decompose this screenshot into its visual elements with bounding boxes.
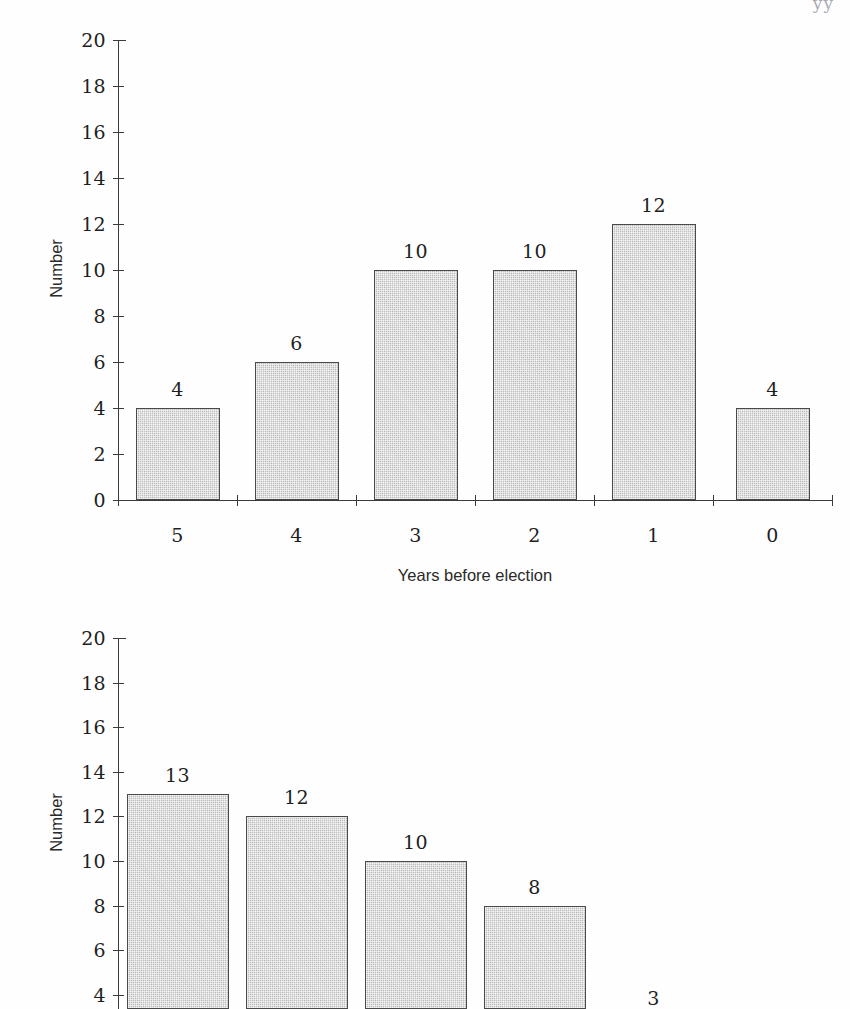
bar-value-label: 3 [647,987,659,1009]
bar [493,270,577,500]
bar-value-label: 4 [766,378,778,400]
y-axis-tick-label: 12 [60,213,106,235]
x-axis-tick [356,495,357,506]
y-axis-tick-label: 18 [60,672,106,694]
x-axis-tick [713,495,714,506]
bar [136,408,220,500]
y-axis-tick [113,316,124,317]
y-axis-tick-label: 10 [60,259,106,281]
bar-value-label: 10 [522,240,547,262]
y-axis-tick [113,683,124,684]
x-axis-tick [594,495,595,506]
y-axis-tick-label: 8 [60,895,106,917]
bar [736,408,810,500]
x-axis-tick [475,495,476,506]
bar [484,906,586,1009]
bar [255,362,339,500]
bar [365,861,467,1009]
y-axis-line [118,638,119,1009]
y-axis-tick [113,727,124,728]
y-axis-tick [113,224,124,225]
y-axis-tick [113,950,124,951]
x-axis-tick-label: 4 [290,524,302,546]
x-axis-tick-label: 2 [528,524,540,546]
bar-value-label: 12 [284,786,309,808]
bar-value-label: 6 [290,332,302,354]
bar-chart-top: 02468101214161820Number543210Years befor… [0,0,850,600]
y-axis-title: Number [47,189,66,349]
y-axis-tick-label: 20 [60,627,106,649]
x-axis-tick [237,495,238,506]
plot-area-bottom: 468101214161820Number13121083 [0,600,850,1009]
y-axis-tick [113,906,124,907]
y-axis-tick [113,178,124,179]
y-axis-tick-label: 6 [60,351,106,373]
y-axis-tick [113,772,124,773]
bar-chart-bottom: 468101214161820Number13121083 [0,600,850,1009]
bar [374,270,458,500]
y-axis-tick-label: 12 [60,805,106,827]
y-axis-tick [113,40,126,41]
x-axis-tick-label: 3 [409,524,421,546]
y-axis-tick [113,132,124,133]
y-axis-tick-label: 6 [60,939,106,961]
y-axis-tick [113,362,124,363]
x-axis-tick [832,495,833,506]
y-axis-tick-label: 8 [60,305,106,327]
y-axis-title: Number [47,742,66,902]
y-axis-tick [113,995,124,996]
y-axis-tick [113,638,126,639]
bar-value-label: 10 [403,831,428,853]
y-axis-tick [113,408,124,409]
y-axis-tick-label: 4 [60,397,106,419]
y-axis-tick-label: 18 [60,75,106,97]
y-axis-tick-label: 2 [60,443,106,465]
plot-area-top: 02468101214161820Number543210Years befor… [0,0,850,600]
bar-value-label: 10 [403,240,428,262]
x-axis-title: Years before election [398,566,552,585]
bar [246,816,348,1009]
y-axis-tick-label: 16 [60,716,106,738]
x-axis-tick [118,495,119,506]
y-axis-tick-label: 4 [60,984,106,1006]
x-axis-tick-label: 1 [647,524,659,546]
y-axis-tick [113,454,124,455]
y-axis-tick-label: 16 [60,121,106,143]
y-axis-tick-label: 0 [60,489,106,511]
y-axis-tick [113,861,124,862]
bar [127,794,229,1009]
bar-value-label: 4 [171,378,183,400]
y-axis-tick-label: 10 [60,850,106,872]
y-axis-tick-label: 20 [60,29,106,51]
bar-value-label: 12 [641,194,666,216]
bar [612,224,696,500]
bar-value-label: 8 [528,876,540,898]
y-axis-tick [113,270,124,271]
y-axis-tick [113,86,124,87]
figure-page: yy 02468101214161820Number543210Years be… [0,0,850,1009]
x-axis-tick-label: 0 [766,524,778,546]
x-axis-tick-label: 5 [171,524,183,546]
y-axis-tick-label: 14 [60,167,106,189]
y-axis-tick [113,816,124,817]
y-axis-tick-label: 14 [60,761,106,783]
bar-value-label: 13 [165,764,190,786]
